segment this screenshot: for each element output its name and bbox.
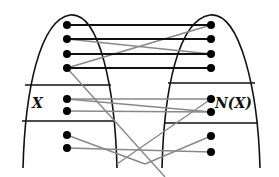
- vertex-r1: [207, 21, 215, 29]
- set-label-neighborhood: N(X): [215, 96, 252, 110]
- light-edge: [67, 39, 211, 54]
- vertex-l7: [63, 131, 71, 139]
- vertex-r5: [207, 95, 215, 103]
- vertex-r6: [207, 108, 215, 116]
- vertex-r7: [207, 132, 215, 140]
- vertex-l4: [63, 64, 71, 72]
- light-edge: [67, 99, 211, 112]
- set-label-x: X: [32, 96, 43, 110]
- vertex-l5: [63, 95, 71, 103]
- light-edge: [117, 99, 211, 164]
- vertex-l1: [63, 21, 71, 29]
- vertex-l8: [63, 144, 71, 152]
- light-edges: [67, 25, 211, 177]
- vertex-r3: [207, 50, 215, 58]
- vertex-r4: [207, 64, 215, 72]
- bipartite-graph-diagram: [0, 0, 279, 177]
- vertex-l3: [63, 50, 71, 58]
- vertex-r8: [207, 148, 215, 156]
- light-edge: [67, 111, 211, 112]
- vertex-r2: [207, 35, 215, 43]
- vertex-l2: [63, 35, 71, 43]
- vertex-l6: [63, 107, 71, 115]
- set-outlines: [22, 15, 260, 168]
